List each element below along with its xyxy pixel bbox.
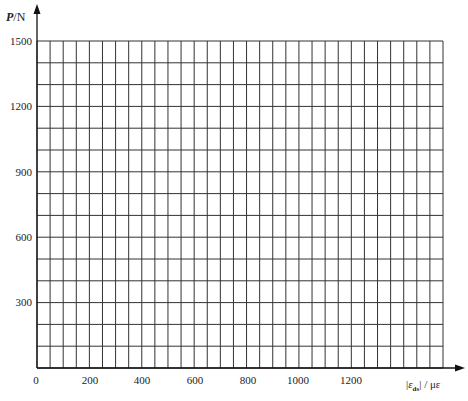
y-tick-300: 300 <box>16 296 33 308</box>
x-tick-600: 600 <box>187 374 204 386</box>
x-tick-1200: 1200 <box>340 374 362 386</box>
y-axis-arrow-icon <box>34 4 41 14</box>
x-tick-0: 0 <box>33 374 39 386</box>
y-axis-unit: /N <box>13 10 25 24</box>
y-tick-1200: 1200 <box>10 100 32 112</box>
y-tick-900: 900 <box>16 166 33 178</box>
y-tick-600: 600 <box>16 231 33 243</box>
x-axis-arrow-icon <box>455 365 465 372</box>
chart-grid <box>0 0 468 401</box>
x-tick-200: 200 <box>82 374 99 386</box>
x-tick-800: 800 <box>240 374 257 386</box>
x-axis-unit: / με <box>421 378 440 390</box>
y-axis-title: P/N <box>6 11 25 23</box>
x-axis-title: |εds| / με <box>406 378 440 395</box>
y-tick-1500: 1500 <box>10 35 32 47</box>
x-tick-1000: 1000 <box>287 374 309 386</box>
x-tick-400: 400 <box>134 374 151 386</box>
